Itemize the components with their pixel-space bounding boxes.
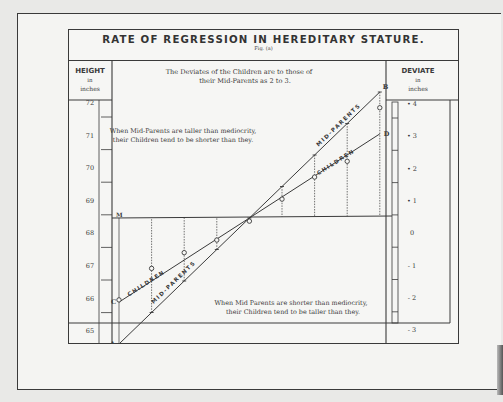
taller-annotation-line2: their Children tend to be shorter than t… [113, 136, 253, 144]
left-tick-label: 72 [86, 99, 94, 107]
observed-point [280, 197, 284, 201]
label-B: B [383, 83, 389, 91]
observed-point [117, 298, 121, 302]
left-tick-label: 71 [86, 132, 94, 140]
left-tick-label: 66 [86, 295, 94, 303]
right-tick-label: - 1 [408, 262, 416, 270]
figure-plate: RATE OF REGRESSION IN HEREDITARY STATURE… [68, 29, 459, 344]
right-tick-label: • 2 [407, 165, 417, 173]
right-axis-header-unit: inches [408, 85, 428, 92]
regression-chart: HEIGHTininchesDEVIATEininches72717069686… [69, 30, 458, 343]
right-axis-header: DEVIATE [401, 67, 434, 75]
label-C: C [111, 298, 116, 306]
mid-parents-label-upper: MID-PARENTS [315, 102, 362, 147]
ratio-annotation-line2: their Mid-Parents as 2 to 3. [199, 77, 291, 85]
right-tick-label: - 2 [408, 294, 416, 302]
right-tick-label: • 4 [407, 100, 417, 108]
shorter-annotation-line1: When Mid Parents are shorter than medioc… [215, 299, 368, 307]
right-axis-header-in: in [415, 77, 421, 83]
observed-point [345, 159, 349, 163]
label-A: A [109, 340, 116, 343]
observed-point [312, 175, 316, 179]
observed-point [378, 106, 382, 110]
right-tick-label: - 3 [408, 326, 416, 334]
ratio-annotation-line1: The Deviates of the Children are to thos… [166, 68, 313, 76]
left-tick-label: 65 [86, 327, 94, 335]
label-M: M [116, 211, 123, 218]
left-axis-header-unit: inches [80, 85, 100, 92]
right-scale-band [392, 102, 398, 323]
shorter-annotation-line2: their Children tend to be taller than th… [226, 308, 360, 316]
label-D: D [384, 130, 390, 138]
mid-parents-label-lower: MID-PARENTS [150, 259, 197, 304]
right-tick-label: • 3 [407, 132, 417, 140]
right-tick-label: 0 [410, 229, 414, 237]
page-edge-shadow [497, 345, 503, 395]
left-tick-label: 69 [86, 197, 94, 205]
observed-point [182, 250, 186, 254]
book-page: RATE OF REGRESSION IN HEREDITARY STATURE… [17, 13, 501, 390]
left-tick-label: 68 [86, 229, 94, 237]
observed-point [215, 238, 219, 242]
taller-annotation-line1: When Mid-Parents are taller than mediocr… [110, 127, 257, 135]
observed-point [247, 219, 251, 223]
left-axis-header-in: in [87, 77, 93, 83]
observed-point [149, 266, 153, 270]
left-axis-header: HEIGHT [75, 67, 105, 75]
left-tick-label: 67 [86, 262, 94, 270]
right-tick-label: • 1 [407, 197, 417, 205]
left-tick-label: 70 [86, 164, 94, 172]
